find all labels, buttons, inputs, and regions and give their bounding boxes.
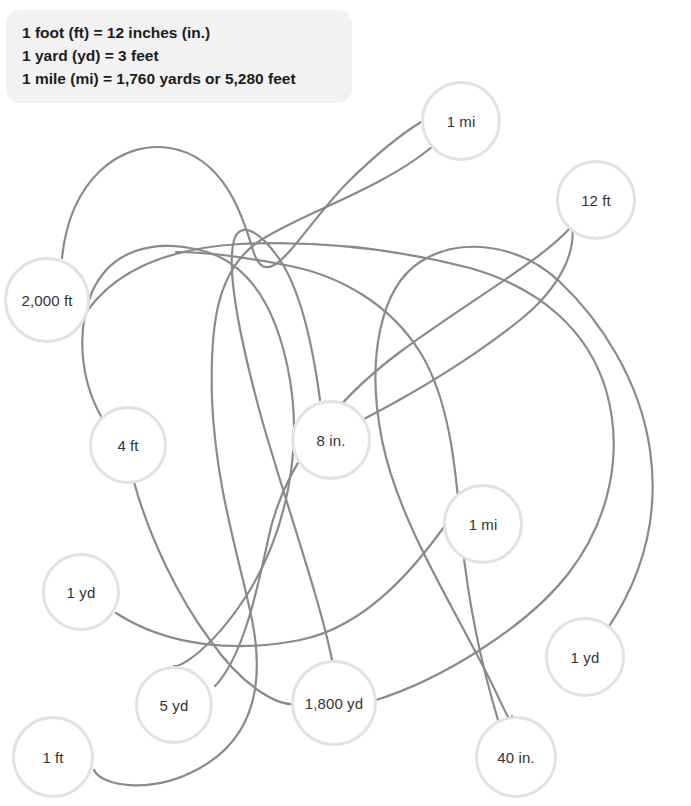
measurement-node-40in[interactable]: 40 in.: [475, 716, 557, 798]
measurement-node-label: 8 in.: [317, 433, 346, 448]
measurement-node-label: 1 mi: [447, 114, 476, 129]
measurement-node-label: 12 ft: [581, 193, 611, 208]
measurement-node-1mi-mid[interactable]: 1 mi: [443, 484, 523, 564]
measurement-node-4ft[interactable]: 4 ft: [89, 406, 167, 484]
measurement-node-label: 1 ft: [42, 750, 63, 765]
measurement-node-1yd-left[interactable]: 1 yd: [42, 553, 120, 631]
measurement-node-label: 1 yd: [67, 585, 96, 600]
measurement-node-label: 1 yd: [571, 650, 600, 665]
measurement-node-label: 40 in.: [497, 750, 534, 765]
legend-line-2: 1 yard (yd) = 3 feet: [22, 45, 336, 68]
measurement-node-1mi-top[interactable]: 1 mi: [421, 81, 501, 161]
measurement-node-label: 4 ft: [117, 438, 138, 453]
measurement-node-12ft[interactable]: 12 ft: [556, 160, 636, 240]
measurement-matching-puzzle: 1 mi12 ft2,000 ft4 ft8 in.1 mi1 yd1 yd5 …: [0, 0, 691, 806]
conversion-reference-box: 1 foot (ft) = 12 inches (in.) 1 yard (yd…: [6, 10, 352, 103]
measurement-node-label: 1 mi: [469, 517, 498, 532]
measurement-node-label: 5 yd: [160, 698, 189, 713]
measurement-node-1yd-right[interactable]: 1 yd: [545, 617, 625, 697]
measurement-node-label: 2,000 ft: [22, 293, 73, 308]
measurement-node-2000ft[interactable]: 2,000 ft: [4, 257, 90, 343]
measurement-node-label: 1,800 yd: [305, 696, 363, 711]
legend-line-3: 1 mile (mi) = 1,760 yards or 5,280 feet: [22, 68, 336, 91]
measurement-node-1800yd[interactable]: 1,800 yd: [291, 660, 377, 746]
legend-line-1: 1 foot (ft) = 12 inches (in.): [22, 22, 336, 45]
measurement-nodes-layer: 1 mi12 ft2,000 ft4 ft8 in.1 mi1 yd1 yd5 …: [0, 0, 691, 806]
measurement-node-1ft[interactable]: 1 ft: [12, 716, 94, 798]
measurement-node-5yd[interactable]: 5 yd: [135, 666, 213, 744]
measurement-node-8in[interactable]: 8 in.: [291, 400, 371, 480]
